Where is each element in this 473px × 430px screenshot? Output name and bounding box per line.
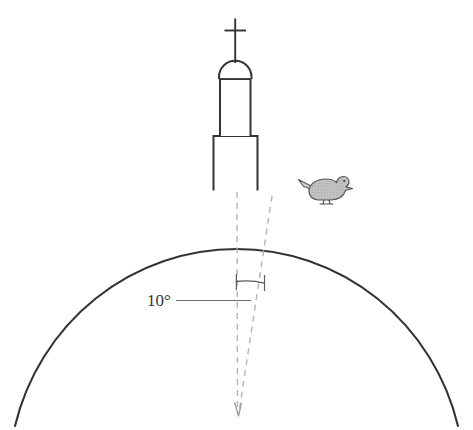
bird-eye [343, 180, 345, 182]
bird-pigeon [299, 177, 353, 205]
slanted-dashed-radius [239, 196, 272, 412]
cross-finial [225, 19, 247, 64]
diagram-canvas: 10° [0, 0, 473, 430]
church-tower [214, 19, 258, 191]
tower-shaft [220, 79, 251, 136]
earth-curvature-diagram: 10° [0, 0, 473, 430]
tower-base-block [214, 136, 258, 191]
bird-feet [320, 200, 333, 204]
bird-body [309, 177, 353, 201]
vertical-dashed-radius [237, 192, 238, 412]
angle-arc-curve [237, 281, 265, 283]
angle-label: 10° [147, 291, 171, 310]
radius-lines-group [235, 192, 273, 416]
tower-dome-cap [219, 61, 252, 79]
